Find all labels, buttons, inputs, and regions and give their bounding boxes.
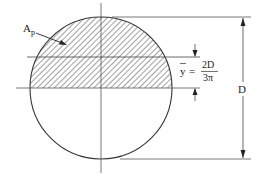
circle-centroid-diagram: D y = 2D 3π Ap bbox=[0, 0, 262, 177]
arrow-down-icon bbox=[193, 50, 198, 57]
centroid-formula: y = 2D 3π bbox=[180, 59, 218, 83]
equals-sign: = bbox=[189, 65, 195, 77]
arrow-down-icon bbox=[241, 150, 246, 158]
arrow-up-icon bbox=[193, 88, 198, 95]
diameter-label: D bbox=[238, 83, 246, 95]
ybar-symbol: y bbox=[180, 65, 186, 77]
arrow-up-icon bbox=[241, 18, 246, 26]
fraction-numerator: 2D bbox=[202, 59, 214, 70]
fraction-denominator: 3π bbox=[203, 72, 213, 83]
area-label: Ap bbox=[23, 22, 35, 37]
